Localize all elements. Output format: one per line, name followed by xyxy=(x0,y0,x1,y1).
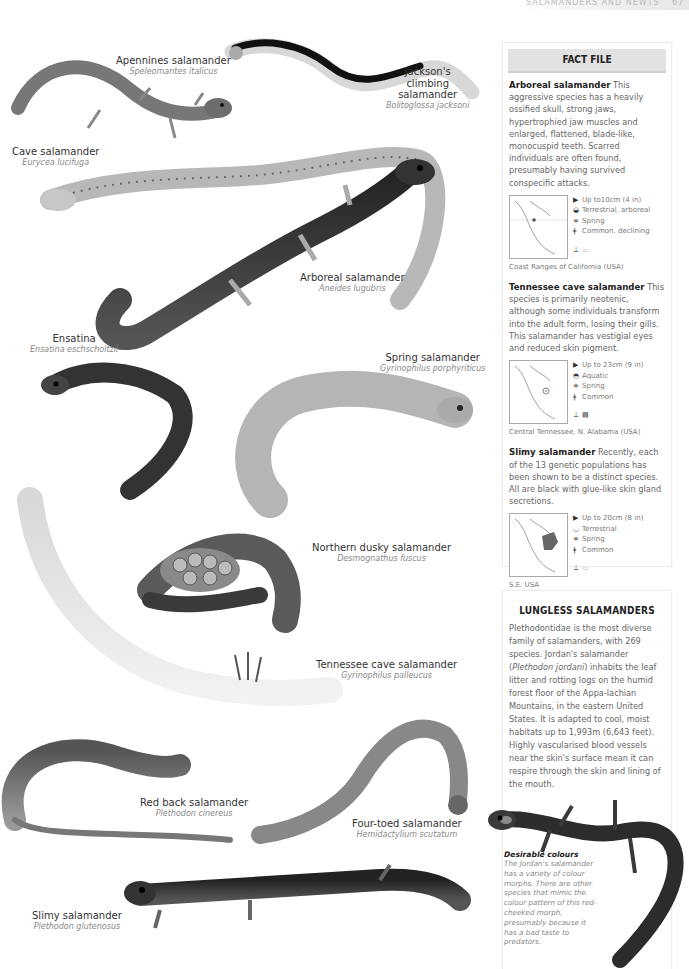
diet-icon: ▤ xyxy=(582,410,591,421)
label-ensatina: Ensatina Ensatina eschscholtzii xyxy=(30,333,118,354)
stat-size: Up to 20cm (8 in) xyxy=(582,514,643,522)
label-apennines-salamander: Apennines salamander Speleomantes italic… xyxy=(116,55,231,76)
stat-list: ▶Up to10cm (4 in) ◒Terrestrial, arboreal… xyxy=(573,195,650,259)
fact-entry-arboreal-salamander: Arboreal salamander This aggressive spec… xyxy=(503,79,671,273)
latin-name: Desmognathus fuscus xyxy=(312,554,451,563)
habitat-icon: ◓ xyxy=(573,371,582,382)
entry-text: This species is primarily neotenic, alth… xyxy=(509,282,664,353)
northern-dusky-salamander-illustration xyxy=(150,547,288,620)
status-icon: ǂ xyxy=(573,545,582,556)
latin-name: Ensatina eschscholtzii xyxy=(30,345,118,354)
slimy-salamander-illustration xyxy=(124,865,460,928)
ensatina-illustration xyxy=(41,373,183,490)
entry-name: Arboreal salamander xyxy=(509,80,611,90)
lungless-title: LUNGLESS SALAMANDERS xyxy=(503,605,671,616)
caption-title: Desirable colours xyxy=(504,850,599,859)
common-name-line: Jackson's xyxy=(386,66,469,78)
status-icon: ǂ xyxy=(573,226,582,237)
apennines-salamander-illustration xyxy=(18,67,232,138)
common-name: Red back salamander xyxy=(140,797,248,809)
stat-status: Common, declining xyxy=(582,227,650,235)
breeding-icon: ≑ xyxy=(573,381,582,392)
breeding-icon: ≑ xyxy=(573,216,582,227)
label-four-toed-salamander: Four-toed salamander Hemidactylium scuta… xyxy=(352,818,462,839)
latin-name: Bolitoglossa jacksoni xyxy=(386,101,469,110)
fact-entry-slimy-salamander: Slimy salamander Recently, each of the 1… xyxy=(503,446,671,591)
stat-habitat: Terrestrial xyxy=(582,525,617,533)
stat-habitat: Aquatic xyxy=(582,372,608,380)
entry-region: Coast Ranges of California (USA) xyxy=(509,261,665,273)
entry-region: Central Tennessee, N. Alabama (USA) xyxy=(509,426,665,438)
stat-status: Common xyxy=(582,393,614,401)
label-tennessee-cave-salamander: Tennessee cave salamander Gyrinophilus p… xyxy=(316,659,457,680)
latin-name: Aneides lugubris xyxy=(300,284,405,293)
diet-icon: ▭ xyxy=(582,245,591,256)
common-name: Four-toed salamander xyxy=(352,818,462,830)
stat-habitat: Terrestrial, arboreal xyxy=(582,206,650,214)
caption-text: The Jordan's salamander has a variety of… xyxy=(504,859,599,947)
latin-name: Gyrinophilus palleucus xyxy=(316,671,457,680)
label-spring-salamander: Spring salamander Gyrinophilus porphyrit… xyxy=(380,352,485,373)
fact-file-title: FACT FILE xyxy=(508,49,666,73)
spring-salamander-illustration xyxy=(253,389,473,500)
stat-breeding: Spring xyxy=(582,217,605,225)
lungless-latin: Plethodon jordani xyxy=(512,662,584,672)
common-name: Apennines salamander xyxy=(116,55,231,67)
common-name: Ensatina xyxy=(30,333,118,345)
range-map xyxy=(509,360,568,424)
latin-name: Gyrinophilus porphyriticus xyxy=(380,364,485,373)
entry-name: Tennessee cave salamander xyxy=(509,282,645,292)
fact-entry-tennessee-cave-salamander: Tennessee cave salamander This species i… xyxy=(503,281,671,438)
range-map xyxy=(509,513,568,577)
red-back-salamander-illustration xyxy=(13,750,230,840)
label-arboreal-salamander: Arboreal salamander Aneides lugubris xyxy=(300,272,405,293)
common-name-line: salamander xyxy=(386,89,469,101)
status-icon: ǂ xyxy=(573,392,582,403)
stat-size: Up to 23cm (9 in) xyxy=(582,361,643,369)
activity-icon: ⊥ xyxy=(573,245,582,256)
stat-breeding: Spring xyxy=(582,535,605,543)
habitat-icon: ◡ xyxy=(573,524,582,535)
latin-name: Plethodon cinereus xyxy=(140,809,248,818)
label-red-back-salamander: Red back salamander Plethodon cinereus xyxy=(140,797,248,818)
label-jacksons-climbing-salamander: Jackson's climbing salamander Bolitoglos… xyxy=(386,66,469,110)
habitat-icon: ◒ xyxy=(573,205,582,216)
entry-text: This aggressive species has a heavily os… xyxy=(509,80,643,188)
label-slimy-salamander: Slimy salamander Plethodon glutenosus xyxy=(32,910,122,931)
stat-status: Common xyxy=(582,546,614,554)
common-name-line: climbing xyxy=(386,78,469,90)
fact-file-panel: FACT FILE Arboreal salamander This aggre… xyxy=(502,42,672,567)
latin-name: Hemidactylium scutatum xyxy=(352,830,462,839)
stat-list: ▶Up to 20cm (8 in) ◡Terrestrial ≑Spring … xyxy=(573,513,643,577)
stat-breeding: Spring xyxy=(582,382,605,390)
size-icon: ▶ xyxy=(573,360,582,371)
size-icon: ▶ xyxy=(573,195,582,206)
size-icon: ▶ xyxy=(573,513,582,524)
range-map xyxy=(509,195,568,259)
common-name: Tennessee cave salamander xyxy=(316,659,457,671)
page-number: 67 xyxy=(672,0,684,7)
running-head-title: SALAMANDERS AND NEWTS xyxy=(526,0,660,7)
common-name: Cave salamander xyxy=(12,146,99,158)
common-name: Northern dusky salamander xyxy=(312,542,451,554)
latin-name: Plethodon glutenosus xyxy=(32,922,122,931)
stat-list: ▶Up to 23cm (9 in) ◓Aquatic ≑Spring ǂCom… xyxy=(573,360,643,424)
label-cave-salamander: Cave salamander Eurycea lucifuga xyxy=(12,146,99,167)
running-head: SALAMANDERS AND NEWTS 67 xyxy=(520,0,689,10)
activity-icon: ⊥ xyxy=(573,563,582,574)
desirable-colours-caption: Desirable colours The Jordan's salamande… xyxy=(504,850,599,947)
diet-icon: ▭ xyxy=(582,563,591,574)
latin-name: Speleomantes italicus xyxy=(116,67,231,76)
common-name: Arboreal salamander xyxy=(300,272,405,284)
common-name: Slimy salamander xyxy=(32,910,122,922)
label-northern-dusky-salamander: Northern dusky salamander Desmognathus f… xyxy=(312,542,451,563)
latin-name: Eurycea lucifuga xyxy=(12,158,99,167)
activity-icon: ⊥ xyxy=(573,410,582,421)
common-name: Spring salamander xyxy=(380,352,485,364)
stat-size: Up to10cm (4 in) xyxy=(582,196,641,204)
breeding-icon: ≑ xyxy=(573,534,582,545)
entry-name: Slimy salamander xyxy=(509,447,595,457)
